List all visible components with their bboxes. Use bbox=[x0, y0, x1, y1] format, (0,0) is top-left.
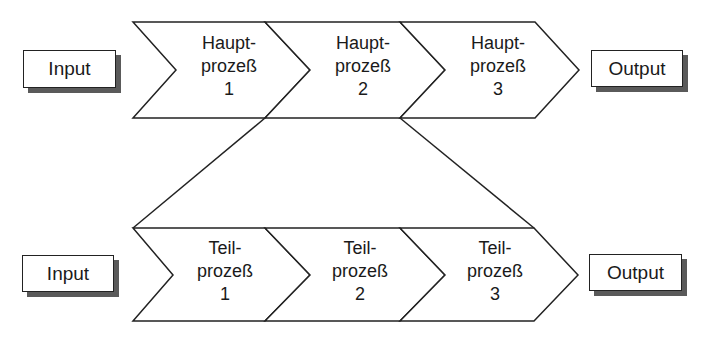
teilprozess-3-label: Teil- prozeß 3 bbox=[440, 237, 550, 306]
output-box-top: Output bbox=[591, 50, 683, 87]
output-box-bottom: Output bbox=[589, 254, 682, 291]
output-label: Output bbox=[607, 262, 664, 284]
input-label: Input bbox=[48, 58, 90, 80]
output-label: Output bbox=[608, 58, 665, 80]
expansion-line-right bbox=[400, 118, 534, 228]
teilprozess-1-label: Teil- prozeß 1 bbox=[170, 237, 280, 306]
input-box-top: Input bbox=[23, 50, 116, 88]
expansion-line-left bbox=[133, 118, 265, 228]
hauptprozess-2-label: Haupt- prozeß 2 bbox=[308, 32, 418, 101]
input-box-bottom: Input bbox=[22, 255, 114, 292]
hauptprozess-1-label: Haupt- prozeß 1 bbox=[174, 32, 284, 101]
teilprozess-2-label: Teil- prozeß 2 bbox=[305, 237, 415, 306]
hauptprozess-3-label: Haupt- prozeß 3 bbox=[443, 32, 553, 101]
input-label: Input bbox=[47, 263, 89, 285]
